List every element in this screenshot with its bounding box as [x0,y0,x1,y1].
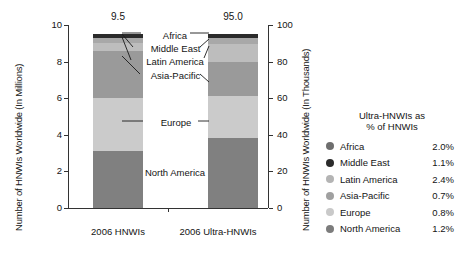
legend-swatch-icon [326,142,334,150]
legend-swatch-icon [326,225,334,233]
right-axis-tick-label: 20 [277,166,288,176]
left-axis-tick-label: 0 [57,203,62,213]
legend-title-line1: Ultra-HNWIs as [330,110,454,121]
legend-item-label: Middle East [340,157,432,168]
right-axis-title: Number of HNWIs Worldwide (In Thousands) [300,49,311,231]
left-axis-tick-label: 2 [57,166,62,176]
left-axis-tick-label: 10 [51,20,62,30]
bar-total-ultra-hnwis: 95.0 [203,11,263,22]
legend-item-label: Africa [340,141,432,152]
legend-item-label: Asia-Pacific [340,190,432,201]
legend-title-line2: % of HNWIs [330,121,454,132]
legend-item-label: Latin America [340,174,432,185]
left-axis-spine [68,25,69,208]
legend-swatch-icon [326,192,334,200]
left-axis-tick-label: 8 [57,57,62,67]
legend-item: North America1.2% [326,221,454,238]
left-axis-tick [64,171,68,172]
right-axis-tick-label: 100 [277,20,293,30]
right-axis-tick-label: 80 [277,57,288,67]
legend-item-value: 0.7% [432,190,454,201]
callout-africa: Africa [140,30,210,41]
legend-title: Ultra-HNWIs as % of HNWIs [330,110,454,132]
left-axis-tick-label: 4 [57,130,62,140]
legend-item-value: 2.0% [432,141,454,152]
left-axis-tick [64,25,68,26]
left-axis-title: Number of HNWIs Worldwide (In Millions) [13,64,24,231]
left-axis-tick [64,62,68,63]
legend-item: Asia-Pacific0.7% [326,188,454,205]
legend-rows: Africa2.0%Middle East1.1%Latin America2.… [326,138,454,237]
x-label-2006-ultra-hnwis: 2006 Ultra-HNWIs [168,226,268,237]
right-axis-tick [269,135,273,136]
right-axis-tick-label: 40 [277,130,288,140]
legend-item-value: 2.4% [432,174,454,185]
legend-item: Middle East1.1% [326,155,454,172]
right-axis-tick [269,98,273,99]
legend-item: Africa2.0% [326,138,454,155]
legend-item: Europe0.8% [326,204,454,221]
legend-item: Latin America2.4% [326,171,454,188]
legend-item-value: 1.1% [432,157,454,168]
legend: Ultra-HNWIs as % of HNWIs Africa2.0%Midd… [326,110,454,237]
callout-asia-pacific: Asia-Pacific [133,70,218,81]
left-axis-tick [64,208,68,209]
right-axis-tick [269,25,273,26]
left-axis-tick [64,135,68,136]
callout-north-america: North America [125,167,225,178]
x-axis-mid-tick [168,208,169,212]
legend-item-value: 0.8% [432,207,454,218]
legend-item-value: 1.2% [432,223,454,234]
x-label-2006-hnwis: 2006 HNWIs [68,226,168,237]
left-axis-tick-label: 6 [57,93,62,103]
callout-middle-east: Middle East [133,43,218,54]
bar-segment-north-america [93,151,143,208]
legend-swatch-icon [326,159,334,167]
right-axis-spine [268,25,269,208]
stacked-bar-chart: Number of HNWIs Worldwide (In Millions) … [0,0,457,256]
legend-item-label: Europe [340,207,432,218]
callout-latin-america: Latin America [130,56,220,67]
legend-swatch-icon [326,175,334,183]
left-axis-tick [64,98,68,99]
callout-europe: Europe [136,117,216,128]
right-axis-tick [269,62,273,63]
right-axis-tick-label: 60 [277,93,288,103]
bar-total-hnwis: 9.5 [88,11,148,22]
legend-swatch-icon [326,208,334,216]
right-axis-tick [269,208,273,209]
legend-item-label: North America [340,223,432,234]
right-axis-tick-label: 0 [277,203,282,213]
right-axis-tick [269,171,273,172]
